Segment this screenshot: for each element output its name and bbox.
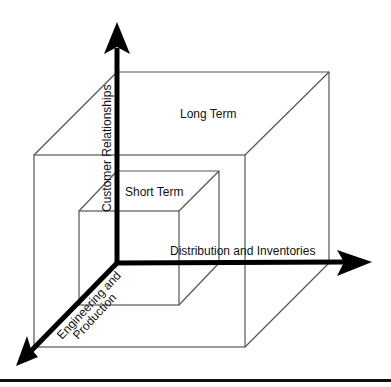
outer-cube-edge-br xyxy=(245,263,329,347)
vertical-axis-label: Customer Relationships xyxy=(100,85,114,212)
short-term-label: Short Term xyxy=(125,185,183,199)
horizontal-axis-line xyxy=(115,262,345,263)
strategy-cube-diagram: Long Term Short Term Distribution and In… xyxy=(0,0,391,387)
long-term-label: Long Term xyxy=(180,107,236,121)
arrow-down-left-icon xyxy=(16,336,38,366)
inner-cube-edge-tr xyxy=(179,171,219,211)
outer-cube-back-edges xyxy=(117,72,329,263)
outer-cube-edge-tr xyxy=(245,72,329,155)
axes xyxy=(16,22,372,366)
bottom-rule xyxy=(0,379,391,382)
inner-cube-edge-br xyxy=(179,263,219,305)
horizontal-axis-label: Distribution and Inventories xyxy=(170,244,315,258)
